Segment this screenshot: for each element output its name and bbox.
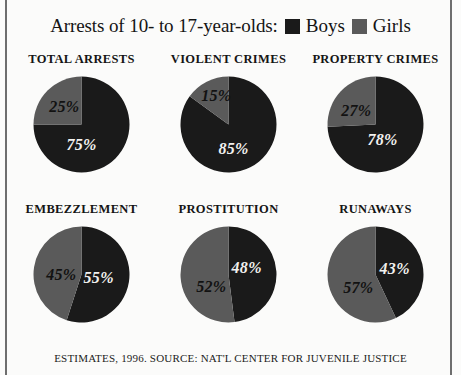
source-note: ESTIMATES, 1996. SOURCE: NAT'L CENTER FO… <box>0 352 461 364</box>
page-title: Arrests of 10- to 17-year-olds: <box>50 15 278 37</box>
pie-cell-runaways: RUNAWAYS 43%57% <box>302 202 449 325</box>
pie-cell-violent-crimes: VIOLENT CRIMES 85%15% <box>155 52 302 175</box>
pie-chart: 75%25% <box>31 74 132 175</box>
legend-entry-girls: Girls <box>352 15 411 37</box>
right-margin-rule <box>450 0 452 375</box>
pie-title: PROPERTY CRIMES <box>312 52 438 67</box>
pie-title: TOTAL ARRESTS <box>28 52 135 67</box>
left-margin-rule <box>5 0 7 375</box>
legend-label-girls: Girls <box>373 15 411 37</box>
infographic-figure: Arrests of 10- to 17-year-olds: Boys Gir… <box>0 0 461 375</box>
pie-title: EMBEZZLEMENT <box>26 202 138 217</box>
pie-slice-boys <box>229 227 277 323</box>
pie-cell-prostitution: PROSTITUTION 48%52% <box>155 202 302 325</box>
chart-header: Arrests of 10- to 17-year-olds: Boys Gir… <box>0 12 461 40</box>
pie-slice-girls <box>181 227 235 323</box>
girls-swatch-icon <box>352 19 367 34</box>
pie-chart: 43%57% <box>325 224 426 325</box>
pie-title: RUNAWAYS <box>339 202 412 217</box>
pie-row-top: TOTAL ARRESTS 75%25% VIOLENT CRIMES 85%1… <box>8 52 449 175</box>
legend-label-boys: Boys <box>306 15 345 37</box>
pie-cell-property-crimes: PROPERTY CRIMES 78%27% <box>302 52 449 175</box>
pie-title: PROSTITUTION <box>178 202 278 217</box>
pie-chart: 85%15% <box>178 74 279 175</box>
pie-cell-embezzlement: EMBEZZLEMENT 55%45% <box>8 202 155 325</box>
pie-title: VIOLENT CRIMES <box>171 52 286 67</box>
pie-slice-girls <box>34 77 82 125</box>
pie-row-bottom: EMBEZZLEMENT 55%45% PROSTITUTION 48%52% … <box>8 202 449 325</box>
pie-cell-total-arrests: TOTAL ARRESTS 75%25% <box>8 52 155 175</box>
boys-swatch-icon <box>285 19 300 34</box>
pie-chart: 55%45% <box>31 224 132 325</box>
pie-chart: 48%52% <box>178 224 279 325</box>
pie-slice-girls <box>328 77 376 127</box>
legend-entry-boys: Boys <box>285 15 345 37</box>
pie-chart: 78%27% <box>325 74 426 175</box>
